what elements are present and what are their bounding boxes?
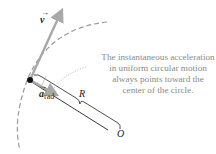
radius-label: R: [79, 88, 85, 99]
center-label: O: [117, 128, 124, 139]
particle-point: [27, 77, 33, 83]
caption-text: The instantaneous acceleration in unifor…: [100, 52, 216, 96]
velocity-vector: [30, 12, 61, 80]
acceleration-label: →arad: [39, 88, 54, 99]
velocity-label: →v: [40, 14, 44, 25]
circular-path: [17, 22, 107, 150]
